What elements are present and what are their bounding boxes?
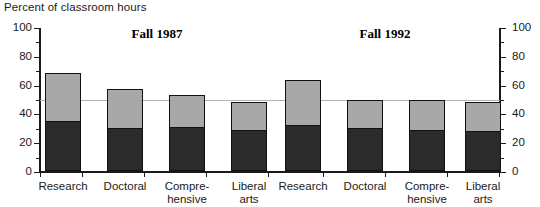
bar-segment-upper	[410, 101, 444, 130]
y-tick-right-60	[500, 86, 506, 87]
x-axis-tick-3	[206, 172, 207, 177]
bar-segment-lower	[466, 131, 500, 170]
category-label-line1: Doctoral	[344, 180, 387, 193]
category-label-6: Compre-hensive	[405, 180, 450, 205]
y-axis-label-left-80: 80	[19, 51, 32, 63]
y-tick-left-60	[34, 86, 40, 87]
bar-fall-1992-doctoral	[347, 100, 383, 171]
bar-segment-lower	[286, 125, 320, 170]
y-minortick-right-50	[500, 100, 504, 101]
y-minortick-right-90	[500, 42, 504, 43]
category-label-line2: hensive	[405, 193, 450, 206]
y-minortick-left-10	[36, 158, 40, 159]
x-axis-tick-1	[82, 172, 83, 177]
y-axis-label-left-60: 60	[19, 80, 32, 92]
y-axis-label-left-0: 0	[26, 166, 32, 178]
bar-segment-lower	[46, 121, 80, 170]
bar-segment-upper	[466, 103, 500, 132]
bar-segment-upper	[46, 74, 80, 122]
bar-fall-1987-liberal-arts	[231, 102, 267, 171]
y-tick-right-100	[500, 28, 506, 29]
x-axis-tick-6	[385, 172, 386, 177]
y-minortick-left-90	[36, 42, 40, 43]
bar-fall-1987-doctoral	[107, 89, 143, 171]
panel-title-fall-1987: Fall 1987	[132, 26, 183, 42]
bar-segment-upper	[170, 96, 204, 128]
y-axis-label-right-100: 100	[512, 22, 531, 34]
bar-fall-1992-comprehensive	[409, 100, 445, 171]
y-axis-label-right-40: 40	[512, 108, 525, 120]
category-label-line1: Liberal	[466, 180, 501, 193]
category-label-4: Research	[278, 180, 327, 193]
x-axis-tick-8	[499, 172, 500, 177]
chart-caption: Percent of classroom hours	[4, 1, 147, 13]
y-tick-left-100	[34, 28, 40, 29]
category-label-7: Liberalarts	[466, 180, 501, 205]
bar-segment-upper	[232, 103, 266, 131]
y-axis-label-left-100: 100	[13, 22, 32, 34]
y-tick-left-20	[34, 143, 40, 144]
panel-title-fall-1992: Fall 1992	[360, 26, 411, 42]
y-minortick-left-70	[36, 71, 40, 72]
bar-segment-lower	[170, 127, 204, 170]
bar-fall-1992-research	[285, 80, 321, 171]
category-label-line2: arts	[466, 193, 501, 206]
category-label-1: Doctoral	[104, 180, 147, 193]
x-axis-tick-2	[144, 172, 145, 177]
y-tick-left-40	[34, 114, 40, 115]
x-axis-tick-0	[40, 172, 41, 177]
y-axis-label-right-60: 60	[512, 80, 525, 92]
category-label-2: Compre-hensive	[165, 180, 210, 205]
category-label-3: Liberalarts	[232, 180, 267, 205]
x-axis-tick-4	[268, 172, 269, 177]
bar-segment-upper	[108, 90, 142, 129]
y-axis-label-right-80: 80	[512, 51, 525, 63]
bar-segment-lower	[232, 130, 266, 170]
y-axis-label-left-20: 20	[19, 137, 32, 149]
chart-figure: Percent of classroom hours 0020204040606…	[0, 0, 540, 207]
bar-segment-lower	[348, 128, 382, 170]
category-label-line1: Compre-	[165, 180, 210, 193]
category-label-line2: arts	[232, 193, 267, 206]
bar-segment-upper	[286, 81, 320, 126]
y-tick-right-80	[500, 57, 506, 58]
bar-fall-1992-liberal-arts	[465, 102, 501, 171]
category-label-line1: Doctoral	[104, 180, 147, 193]
bar-fall-1987-comprehensive	[169, 95, 205, 171]
bar-segment-lower	[108, 128, 142, 170]
y-tick-right-0	[500, 172, 506, 173]
bar-fall-1987-research	[45, 73, 81, 171]
y-minortick-left-50	[36, 100, 40, 101]
x-axis-tick-5	[323, 172, 324, 177]
category-label-5: Doctoral	[344, 180, 387, 193]
y-axis-label-left-40: 40	[19, 108, 32, 120]
category-label-line1: Compre-	[405, 180, 450, 193]
x-axis	[39, 171, 501, 173]
category-label-line1: Research	[278, 180, 327, 193]
y-axis-label-right-0: 0	[512, 166, 518, 178]
plot-area: 002020404060608080100100 Fall 1987 Fall …	[40, 28, 500, 172]
bar-segment-lower	[410, 130, 444, 170]
y-axis-label-right-20: 20	[512, 137, 525, 149]
y-minortick-right-70	[500, 71, 504, 72]
category-label-line2: hensive	[165, 193, 210, 206]
category-label-line1: Research	[38, 180, 87, 193]
y-minortick-left-30	[36, 129, 40, 130]
x-axis-tick-7	[447, 172, 448, 177]
bar-segment-upper	[348, 101, 382, 129]
y-tick-left-80	[34, 57, 40, 58]
category-label-line1: Liberal	[232, 180, 267, 193]
category-label-0: Research	[38, 180, 87, 193]
